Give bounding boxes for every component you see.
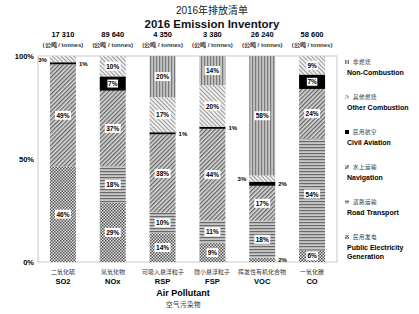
x-tick-label-cn: 二氧化硫 [51,268,75,276]
x-tick-label-cn: 可吸入悬浮粒子 [142,268,184,276]
data-label: 11% [206,228,219,235]
data-label: 9% [208,249,218,256]
x-tick-label-cn: 挥发性有机化合物 [238,268,286,276]
y-tick-label: 0% [23,258,34,267]
bar-total-label: 26 240 [251,30,274,39]
bar-unit-label: (公吨 / tonnes) [192,41,233,49]
legend-swatch-public-electricity [345,235,349,239]
legend-label-line2: Generation [347,253,384,260]
legend-label-cn: 非燃烧 [353,58,371,66]
data-label: 38% [156,170,169,177]
legend-label: Civil Aviation [347,139,391,146]
legend-label: Navigation [347,174,383,182]
data-label: 37% [106,125,119,132]
bar-segment-civil-aviation [249,182,275,186]
bar-total-label: 17 310 [51,30,74,39]
legend-label-cn: 民用发电 [353,233,377,241]
plot-frame [38,56,337,262]
data-label: 9% [307,62,317,69]
plot-area: 0%50%100%17 310(公吨 / tonnes)二氧化硫SO246%49… [15,30,337,286]
legend-swatch-non-combustion [345,60,349,64]
legend-label-cn: 道路运输 [353,198,377,206]
bar-total-label: 3 380 [203,30,222,39]
bar-unit-label: (公吨 / tonnes) [242,41,283,49]
data-label: 20% [206,103,219,110]
x-axis-title-cn: 空气污染物 [166,300,201,309]
bar-unit-label: (公吨 / tonnes) [292,41,333,49]
data-label: 20% [156,73,169,80]
legend-label: Other Combustion [347,104,408,111]
chart-title-cn: 2016年排放清单 [176,4,248,16]
data-label: 14% [206,67,219,74]
data-label: 17% [256,200,269,207]
data-label: 29% [106,229,119,236]
legend-label-cn: 民用航空 [353,128,377,136]
x-tick-label: SO2 [55,277,70,286]
data-label: 24% [306,110,319,117]
y-tick-label: 50% [19,155,34,164]
data-label: 58% [256,112,269,119]
legend-swatch-civil-aviation [345,130,349,134]
bar-unit-label: (公吨 / tonnes) [92,41,133,49]
data-label: 49% [56,112,69,119]
data-label: 6% [307,252,317,259]
bar-segment-civil-aviation [50,62,76,64]
data-label: 18% [106,181,119,188]
bar-total-label: 89 640 [101,30,124,39]
bar-segment-civil-aviation [150,132,176,134]
bar-total-label: 4 350 [153,30,172,39]
data-label-outside: 2% [278,257,287,263]
bar-segment-public-electricity-generation [249,258,275,262]
legend-label: Road Transport [347,209,399,217]
data-label-outside: 1% [179,131,188,137]
bar-unit-label: (公吨 / tonnes) [142,41,183,49]
bar-segment-civil-aviation [199,127,225,129]
data-label-outside: 3% [238,176,247,182]
x-tick-label: CO [306,277,317,286]
data-label-outside: 1% [228,125,237,131]
data-label-outside: 2% [278,181,287,187]
legend-swatch-road-transport [345,200,349,204]
x-tick-label: NOx [105,277,121,286]
legend-label: Public Electricity [347,244,404,252]
legend-swatch-navigation [345,165,349,169]
legend-label-cn: 其他燃烧 [353,93,377,101]
legend-label: Non-Combustion [347,69,404,76]
data-label: 46% [56,211,69,218]
data-label: 7% [307,78,317,85]
bar-total-label: 58 600 [301,30,324,39]
x-tick-label-cn: 氮氧化物 [101,268,125,276]
bar-unit-label: (公吨 / tonnes) [43,41,84,49]
emission-inventory-chart: 2016年排放清单 2016 Emission Inventory 0%50%1… [0,0,419,314]
chart-title: 2016 Emission Inventory [145,18,280,30]
x-tick-label-cn: 一氧化碳 [300,268,324,276]
data-label: 44% [206,171,219,178]
data-label-outside: 3% [38,57,47,63]
bar-segment-other-combustion [249,175,275,181]
legend-swatch-other-combustion [345,95,349,99]
x-tick-label: RSP [155,277,170,286]
legend: 非燃烧Non-Combustion其他燃烧Other Combustion民用航… [345,58,408,260]
data-label: 7% [108,80,118,87]
x-tick-label-cn: 微小悬浮粒子 [194,268,230,276]
y-tick-label: 100% [15,52,35,61]
data-label: 14% [156,244,169,251]
data-label: 10% [106,63,119,70]
data-label: 18% [256,236,269,243]
x-axis-title: Air Pollutant [156,288,210,298]
data-label: 54% [306,191,319,198]
legend-label-cn: 水上运输 [353,163,377,171]
bar-segment-other-combustion [50,56,76,62]
data-label-outside: 1% [79,61,88,67]
x-tick-label: VOC [254,277,271,286]
data-label: 10% [156,219,169,226]
x-tick-label: FSP [205,277,220,286]
data-label: 17% [156,111,169,118]
